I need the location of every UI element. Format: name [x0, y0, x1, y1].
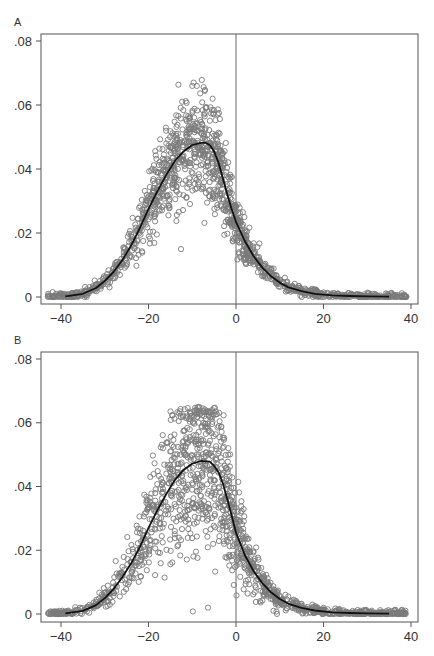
scatter-point	[168, 537, 173, 542]
scatter-point	[205, 545, 210, 550]
x-tick-label: 40	[404, 629, 418, 644]
scatter-series-observed	[46, 404, 409, 616]
scatter-point	[203, 529, 208, 534]
plot-area-frame	[41, 352, 418, 622]
scatter-point	[180, 127, 185, 132]
scatter-point	[211, 523, 216, 528]
scatter-point	[241, 587, 246, 592]
scatter-point	[159, 534, 164, 539]
scatter-point	[254, 545, 259, 550]
scatter-point	[162, 575, 167, 580]
scatter-point	[238, 574, 243, 579]
scatter-point	[198, 91, 203, 96]
scatter-point	[183, 167, 188, 172]
x-tick-label: −40	[50, 629, 72, 644]
scatter-point	[178, 553, 183, 558]
y-tick-label: .06	[14, 98, 32, 113]
x-tick-label: −40	[50, 311, 72, 326]
scatter-point	[193, 549, 198, 554]
scatter-point	[205, 605, 210, 610]
y-tick-label: 0	[25, 290, 32, 305]
x-tick-label: −20	[137, 629, 159, 644]
y-tick-label: .06	[14, 415, 32, 430]
scatter-series-observed	[45, 77, 409, 299]
scatter-point	[152, 461, 157, 466]
y-tick-label: .04	[14, 479, 32, 494]
figure: A 0.02.04.06.08−40−2002040 B 0.02.04.06.…	[0, 0, 434, 656]
scatter-point	[225, 231, 230, 236]
y-tick-label: 0	[25, 607, 32, 622]
scatter-point	[150, 453, 155, 458]
scatter-point	[213, 569, 218, 574]
x-tick-label: 0	[232, 629, 239, 644]
scatter-point	[151, 472, 156, 477]
scatter-point	[162, 462, 167, 467]
scatter-point	[144, 568, 149, 573]
x-tick-label: 40	[404, 311, 418, 326]
scatter-point	[205, 200, 210, 205]
scatter-point	[222, 224, 227, 229]
scatter-point	[160, 540, 165, 545]
scatter-point	[211, 541, 216, 546]
scatter-point	[174, 218, 179, 223]
scatter-point	[239, 499, 244, 504]
y-tick-label: .02	[14, 543, 32, 558]
scatter-point	[227, 563, 232, 568]
scatter-point	[158, 561, 163, 566]
scatter-point	[148, 474, 153, 479]
scatter-point	[117, 594, 122, 599]
scatter-point	[158, 510, 163, 515]
scatter-point	[178, 247, 183, 252]
scatter-point	[255, 270, 260, 275]
scatter-point	[242, 514, 247, 519]
x-tick-label: 0	[232, 311, 239, 326]
y-tick-label: .04	[14, 162, 32, 177]
scatter-point	[160, 433, 165, 438]
x-tick-label: 20	[316, 311, 330, 326]
y-tick-label: .02	[14, 226, 32, 241]
scatter-point	[225, 459, 230, 464]
scatter-point	[187, 201, 192, 206]
scatter-point	[153, 491, 158, 496]
scatter-point	[134, 263, 139, 268]
scatter-point	[202, 220, 207, 225]
panel-label: B	[14, 334, 21, 346]
scatter-point	[199, 77, 204, 82]
scatter-point	[210, 96, 215, 101]
scatter-point	[200, 100, 205, 105]
panel-b: B 0.02.04.06.08−40−2002040	[14, 334, 418, 644]
scatter-point	[228, 181, 233, 186]
scatter-point	[230, 568, 235, 573]
scatter-point	[217, 419, 222, 424]
scatter-point	[168, 524, 173, 529]
scatter-point	[226, 446, 231, 451]
y-tick-label: .08	[14, 34, 32, 49]
scatter-point	[136, 579, 141, 584]
scatter-point	[173, 197, 178, 202]
scatter-point	[151, 229, 156, 234]
scatter-point	[219, 429, 224, 434]
scatter-point	[192, 514, 197, 519]
scatter-point	[158, 137, 163, 142]
scatter-point	[188, 531, 193, 536]
scatter-point	[176, 82, 181, 87]
scatter-point	[130, 215, 135, 220]
scatter-point	[153, 573, 158, 578]
panel-label: A	[14, 16, 22, 28]
scatter-point	[166, 213, 171, 218]
scatter-point	[179, 527, 184, 532]
scatter-point	[141, 238, 146, 243]
x-tick-label: −20	[137, 311, 159, 326]
scatter-point	[190, 609, 195, 614]
scatter-point	[184, 557, 189, 562]
scatter-point	[113, 559, 118, 564]
scatter-point	[191, 80, 196, 85]
scatter-point	[205, 534, 210, 539]
scatter-point	[212, 212, 217, 217]
scatter-point	[153, 546, 158, 551]
y-tick-label: .08	[14, 352, 32, 367]
scatter-point	[245, 591, 250, 596]
scatter-point	[222, 232, 227, 237]
scatter-point	[125, 534, 130, 539]
scatter-point	[207, 118, 212, 123]
